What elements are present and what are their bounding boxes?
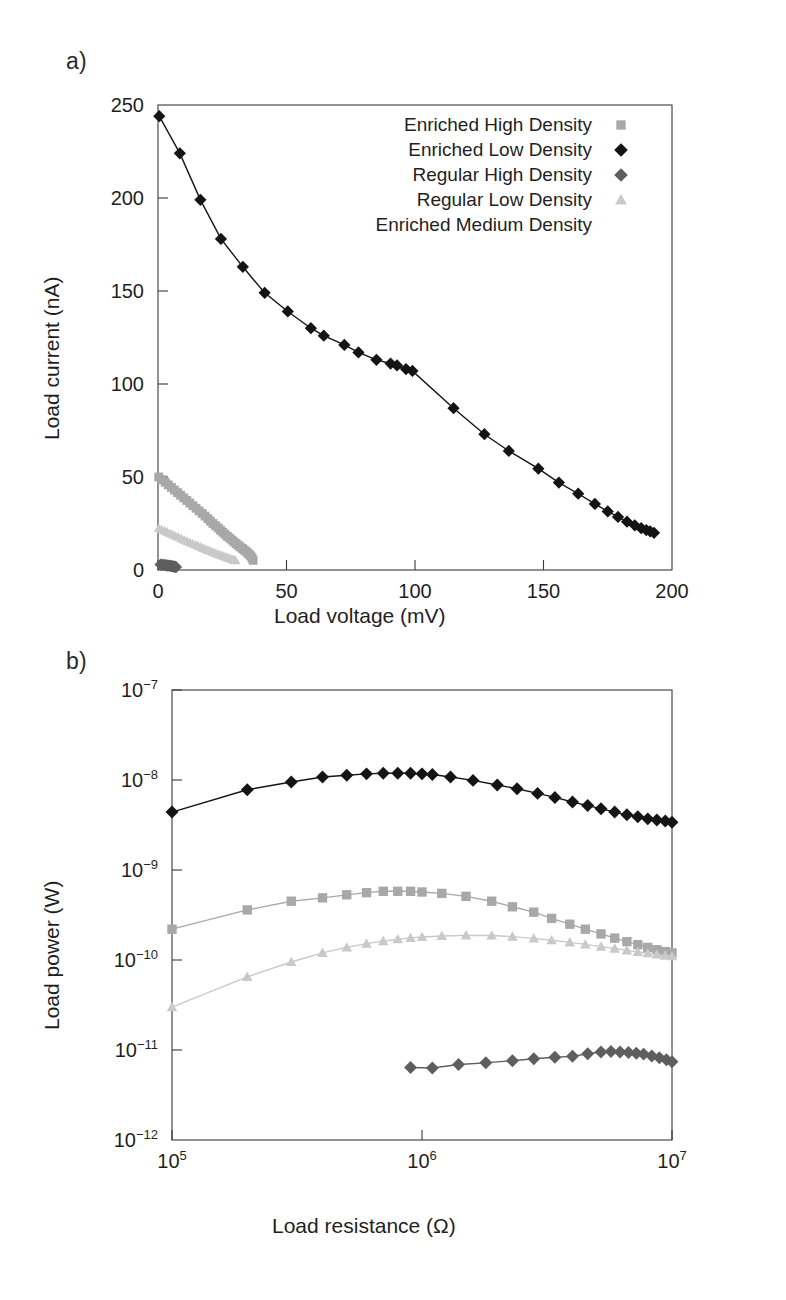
data-point: [360, 767, 373, 780]
data-point: [437, 889, 446, 898]
data-point: [608, 806, 621, 819]
data-point: [595, 802, 608, 815]
data-point: [620, 808, 633, 821]
data-point: [547, 914, 556, 923]
data-point: [243, 905, 252, 914]
data-point: [417, 887, 426, 896]
data-point: [316, 771, 329, 784]
data-point: [167, 1002, 178, 1011]
data-point: [631, 810, 644, 823]
data-point: [426, 1062, 439, 1075]
data-point: [285, 776, 298, 789]
data-point: [452, 1058, 465, 1071]
data-point: [566, 795, 579, 808]
panel-b-y-tick-label: 10−10: [114, 949, 158, 972]
data-point: [426, 768, 439, 781]
panel-b-plot: [0, 0, 786, 1300]
data-point: [479, 1056, 492, 1069]
data-point: [342, 890, 351, 899]
data-point: [241, 783, 254, 796]
figure-root: a) Load current (nA) Load voltage (mV) 0…: [0, 0, 786, 1300]
data-point: [166, 806, 179, 819]
data-point: [167, 925, 176, 934]
data-point: [581, 1047, 594, 1060]
panel-b-x-tick-label: 106: [407, 1150, 436, 1173]
data-point: [565, 920, 574, 929]
data-point: [506, 1054, 519, 1067]
panel-b-x-tick-label: 105: [157, 1150, 186, 1173]
data-point: [393, 887, 402, 896]
panel-b-y-tick-label: 10−12: [114, 1129, 158, 1152]
data-point: [467, 774, 480, 787]
data-point: [318, 893, 327, 902]
data-point: [391, 767, 404, 780]
panel-b-y-tick-label: 10−9: [121, 859, 158, 882]
data-point: [287, 897, 296, 906]
data-point: [529, 907, 538, 916]
data-point: [362, 888, 371, 897]
data-point: [461, 892, 470, 901]
data-point: [527, 1052, 540, 1065]
data-point: [508, 902, 517, 911]
data-point: [622, 937, 631, 946]
data-point: [340, 769, 353, 782]
data-point: [444, 771, 457, 784]
data-point: [404, 1061, 417, 1074]
panel-b-y-tick-label: 10−7: [121, 679, 158, 702]
panel-b-y-tick-label: 10−11: [115, 1039, 158, 1062]
data-point: [511, 782, 524, 795]
data-point: [610, 933, 619, 942]
data-point: [548, 791, 561, 804]
data-point: [531, 787, 544, 800]
data-point: [404, 767, 417, 780]
data-point: [581, 925, 590, 934]
data-point: [566, 1050, 579, 1063]
data-point: [491, 779, 504, 792]
data-point: [377, 767, 390, 780]
data-point: [596, 929, 605, 938]
data-point: [581, 799, 594, 812]
data-point: [548, 1051, 561, 1064]
data-point: [406, 887, 415, 896]
panel-b-y-tick-label: 10−8: [121, 769, 158, 792]
data-point: [379, 887, 388, 896]
data-point: [416, 767, 429, 780]
panel-b-x-tick-label: 107: [657, 1150, 686, 1173]
data-point: [487, 897, 496, 906]
